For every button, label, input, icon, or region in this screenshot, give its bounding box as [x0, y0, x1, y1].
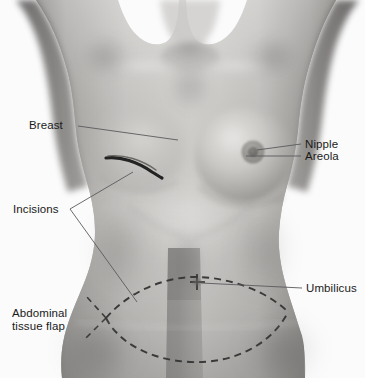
label-incisions: Incisions [13, 203, 59, 216]
label-umbilicus: Umbilicus [306, 282, 357, 295]
label-abdominal-tissue-flap: Abdominal tissue flap [12, 307, 67, 333]
label-breast: Breast [29, 119, 63, 132]
label-areola: Areola [305, 150, 339, 163]
illustration-canvas: Breast Incisions Abdominal tissue flap N… [0, 0, 365, 378]
